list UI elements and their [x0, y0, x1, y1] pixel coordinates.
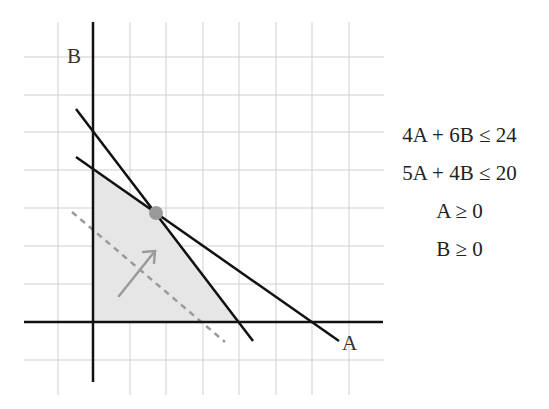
- constraint-1: 4A + 6B ≤ 24: [370, 116, 549, 154]
- grid: [24, 22, 384, 395]
- constraint-2: 5A + 4B ≤ 20: [370, 154, 549, 192]
- b-axis-label: B: [67, 44, 81, 69]
- a-axis-label: A: [342, 331, 357, 356]
- optimal-point: [149, 206, 163, 220]
- constraints-list: 4A + 6B ≤ 24 5A + 4B ≤ 20 A ≥ 0 B ≥ 0: [370, 116, 549, 268]
- constraint-3: A ≥ 0: [370, 192, 549, 230]
- constraint-4: B ≥ 0: [370, 230, 549, 268]
